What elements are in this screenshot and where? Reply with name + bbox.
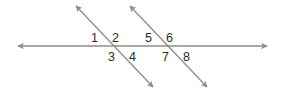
angle-label-8: 8 <box>183 50 190 64</box>
angle-label-6: 6 <box>166 31 173 45</box>
angle-label-1: 1 <box>91 31 98 45</box>
angle-label-7: 7 <box>162 50 169 64</box>
angle-label-5: 5 <box>145 31 152 45</box>
parallel-lines-transversal-diagram: 12345678 <box>0 0 281 91</box>
angle-label-2: 2 <box>112 31 119 45</box>
angle-label-3: 3 <box>108 50 115 64</box>
angle-labels-group: 12345678 <box>91 31 190 64</box>
angle-label-4: 4 <box>129 50 136 64</box>
lines-group <box>18 6 267 87</box>
